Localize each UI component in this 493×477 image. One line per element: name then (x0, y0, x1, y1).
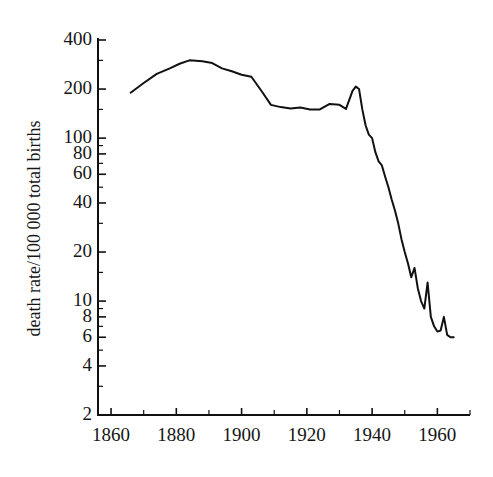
x-axis-ticks (111, 408, 470, 415)
y-axis-label: death rate/100 000 total births (24, 99, 45, 359)
y-tick-label: 2 (83, 403, 93, 425)
y-tick-label: 80 (73, 142, 92, 164)
y-tick-label: 4 (83, 354, 93, 376)
data-series-line (131, 60, 454, 337)
y-axis-ticks (98, 40, 106, 415)
x-tick-label: 1880 (141, 424, 211, 446)
x-tick-label: 1900 (207, 424, 277, 446)
y-tick-label: 20 (73, 240, 92, 262)
y-tick-label: 200 (64, 77, 93, 99)
y-tick-label: 40 (73, 191, 92, 213)
x-tick-label: 1940 (337, 424, 407, 446)
chart-container: death rate/100 000 total births 40020010… (0, 0, 493, 477)
y-tick-label: 6 (83, 325, 93, 347)
x-tick-label: 1860 (76, 424, 146, 446)
axis-lines (97, 38, 470, 416)
x-tick-label: 1960 (402, 424, 472, 446)
line-chart-plot (0, 0, 493, 477)
y-tick-label: 8 (83, 305, 93, 327)
x-tick-label: 1920 (272, 424, 342, 446)
y-tick-label: 400 (64, 28, 93, 50)
y-tick-label: 60 (73, 162, 92, 184)
